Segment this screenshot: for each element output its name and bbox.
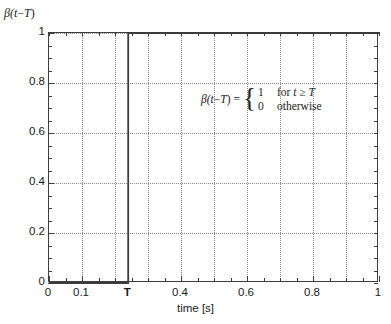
plot-area: β(t−T) = { 1 for t ≥ T 0 otherwise <box>48 32 378 282</box>
y-tick-label: 0.2 <box>5 225 45 238</box>
y-axis-title-beta: β( <box>4 6 14 20</box>
x-axis-tick-top <box>379 32 380 36</box>
y-tick-label: 0.4 <box>5 175 45 188</box>
equation-case-1-for: for <box>277 86 293 98</box>
equation-cases: 1 for t ≥ T 0 otherwise <box>258 85 322 113</box>
y-tick-label: 1 <box>5 25 45 38</box>
x-tick-label: 0.6 <box>226 286 266 299</box>
x-tick-label: 0.1 <box>61 286 101 299</box>
figure-step-function-plot: β(t−T) β(t−T) = { 1 for t ≥ T 0 otherwis… <box>0 0 391 324</box>
y-axis-title-close: ) <box>31 6 35 20</box>
x-axis-title: time [s] <box>0 302 391 314</box>
equation-lhs: β(t−T) <box>201 93 231 105</box>
equation-case-row-1: 1 for t ≥ T <box>258 85 322 99</box>
y-tick-label: 0.6 <box>5 125 45 138</box>
equation-case-1-value: 1 <box>258 85 271 99</box>
y-axis-title-T: T <box>24 6 31 20</box>
equation-brace: { <box>243 88 256 109</box>
equation-lhs-close: ) <box>227 93 231 105</box>
x-axis-tick <box>379 276 380 282</box>
y-axis-tick-right <box>374 283 378 284</box>
equation-case-row-2: 0 otherwise <box>258 99 322 113</box>
equation-lhs-beta: β( <box>201 93 211 105</box>
x-tick-label: 0.4 <box>160 286 200 299</box>
y-tick-label: 0 <box>5 275 45 288</box>
equation-case-1-T: T <box>309 86 315 98</box>
x-tick-label: T <box>107 286 147 299</box>
equation-case-2-value: 0 <box>258 99 271 113</box>
equation-equals-sign: = <box>234 93 241 105</box>
step-curve <box>49 33 379 283</box>
y-axis-title: β(t−T) <box>4 6 35 21</box>
definition-equation: β(t−T) = { 1 for t ≥ T 0 otherwise <box>201 85 322 113</box>
equation-case-1-ge: ≥ <box>296 86 308 98</box>
equation-case-2-condition: otherwise <box>277 99 322 113</box>
step-curve-path <box>49 33 379 283</box>
y-tick-label: 0.8 <box>5 75 45 88</box>
equation-case-1-condition: for t ≥ T <box>277 85 315 99</box>
x-tick-label: 1 <box>358 286 391 299</box>
x-tick-label: 0.8 <box>292 286 332 299</box>
